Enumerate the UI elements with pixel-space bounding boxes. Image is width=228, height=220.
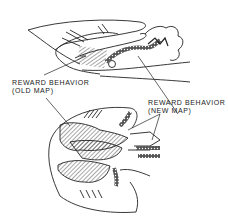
sagittal-view <box>28 20 190 82</box>
new-map-label: REWARD BEHAVIOR (NEW MAP) <box>148 99 225 115</box>
new-map-label-line2: (NEW MAP) <box>148 107 225 115</box>
old-map-label-line1: REWARD BEHAVIOR <box>12 79 89 87</box>
horizontal-view <box>49 107 160 212</box>
old-map-label-line2: (OLD MAP) <box>12 87 89 95</box>
old-map-label: REWARD BEHAVIOR (OLD MAP) <box>12 79 89 95</box>
new-map-label-line1: REWARD BEHAVIOR <box>148 99 225 107</box>
brain-map-figure: REWARD BEHAVIOR (OLD MAP) REWARD BEHAVIO… <box>0 0 228 220</box>
